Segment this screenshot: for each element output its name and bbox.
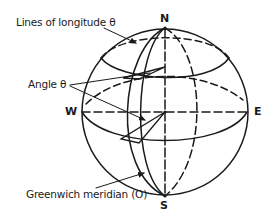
leader-angle-lower [70,86,145,120]
angle-callout-label: Angle θ [28,79,66,90]
west-label: W [65,106,77,117]
north-pole-point [163,26,166,29]
south-label: S [160,200,168,211]
globe-diagram [0,0,275,217]
longitude-callout-label: Lines of longitude θ [16,17,115,28]
leader-greenwich [96,173,144,188]
north-label: N [160,13,169,24]
east-label: E [254,106,262,117]
center-point [164,111,167,114]
south-pole-point [163,194,166,197]
greenwich-callout-label: Greenwich meridian (O) [26,189,147,200]
